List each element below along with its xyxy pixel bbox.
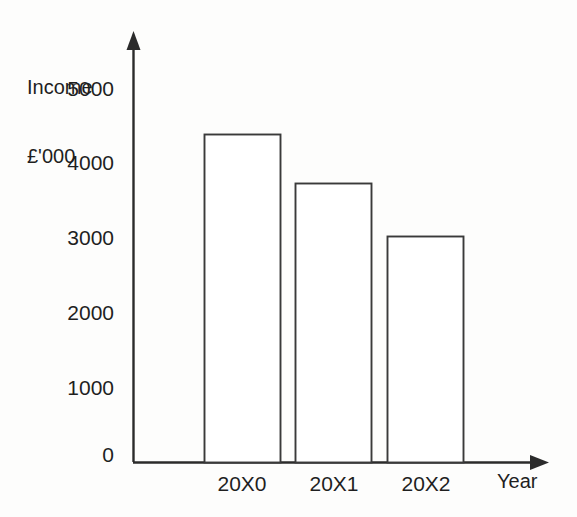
bar-20X0 (205, 135, 281, 463)
y-tick-label-2000: 2000 (48, 302, 114, 323)
y-tick-label-0: 0 (48, 444, 114, 465)
y-tick-label-1000: 1000 (48, 377, 114, 398)
y-axis (127, 31, 141, 462)
x-axis-title: Year (497, 470, 537, 493)
chart-page: Income £'000 5000 4000 3000 2000 1000 0 … (0, 0, 577, 517)
bar-series (205, 135, 464, 463)
y-tick-label-3000: 3000 (48, 227, 114, 248)
x-category-label-20X1: 20X1 (284, 473, 384, 494)
y-axis-title: Income £'000 (27, 30, 93, 214)
x-category-label-20X0: 20X0 (192, 473, 292, 494)
x-category-label-20X2: 20X2 (376, 473, 476, 494)
bar-20X2 (388, 237, 464, 463)
bar-20X1 (296, 184, 372, 463)
x-axis-arrow-icon (530, 455, 549, 470)
y-tick-label-4000: 4000 (48, 152, 114, 173)
y-axis-arrow-icon (127, 31, 141, 50)
y-tick-label-5000: 5000 (48, 78, 114, 99)
